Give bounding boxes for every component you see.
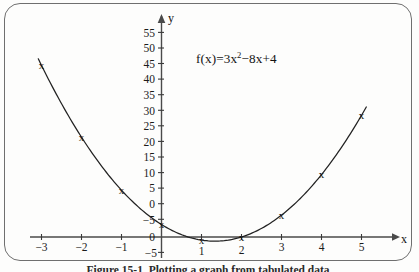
y-tick-label: 40	[144, 73, 156, 85]
figure-caption: Figure 15-1. Plotting a graph from tabul…	[0, 264, 419, 272]
data-point-marker: x	[119, 184, 125, 196]
x-tick-label: 4	[319, 241, 325, 253]
y-tick-label: −5	[143, 214, 155, 226]
y-tick-label: 30	[144, 105, 156, 117]
x-axis	[30, 233, 400, 241]
y-zero-label: 0	[149, 231, 155, 243]
y-tick-label-zero: 0	[149, 231, 155, 243]
y-tick-label: 35	[144, 89, 156, 101]
y-tick-label: 10	[144, 167, 156, 179]
y-tick-label: 55	[144, 27, 156, 39]
y-tick-label: 20	[144, 136, 156, 148]
data-point-marker: x	[199, 234, 205, 246]
x-tick-label: −3	[35, 241, 47, 253]
figure-container: 55 50 45 40 35 30 25 20 15 10 5 0 −5 −5 …	[0, 0, 419, 272]
data-point-marker: x	[239, 231, 245, 243]
graph-plot: 55 50 45 40 35 30 25 20 15 10 5 0 −5 −5 …	[0, 0, 419, 272]
x-tick-label: −2	[75, 241, 87, 253]
y-tick-label: 0	[149, 198, 155, 210]
x-tick-label: 5	[359, 241, 365, 253]
x-tick-label: −1	[115, 241, 127, 253]
data-point-marker: x	[39, 59, 45, 71]
data-point-marker: x	[279, 209, 285, 221]
y-tick-label: 15	[144, 151, 156, 163]
x-tick-label: 2	[239, 244, 245, 256]
y-tick-label: 5	[149, 182, 155, 194]
data-point-marker: x	[359, 109, 365, 121]
data-point-marker: x	[319, 168, 325, 180]
data-point-markers: xxxxxxxxx	[39, 59, 365, 246]
equation-rest: −8x+4	[242, 51, 277, 66]
y-axis-label: y	[168, 11, 174, 25]
function-curve	[38, 59, 366, 241]
y-tick-label-neg5: −5	[145, 247, 157, 259]
y-tick-label: 25	[144, 120, 156, 132]
y-tick-labels: 55 50 45 40 35 30 25 20 15 10 5 0 −5 −5	[143, 27, 157, 259]
x-tick-label: 1	[199, 245, 205, 257]
y-tick-label: 45	[144, 58, 156, 70]
equation-annotation: f(x)=3x2−8x+4	[196, 51, 277, 67]
x-tick-label: 3	[279, 241, 285, 253]
x-axis-label: x	[401, 232, 407, 246]
data-point-marker: x	[79, 131, 85, 143]
equation-base: f(x)=3x	[196, 51, 237, 66]
data-point-marker: x	[159, 218, 165, 230]
y-tick-label: 50	[144, 42, 156, 54]
